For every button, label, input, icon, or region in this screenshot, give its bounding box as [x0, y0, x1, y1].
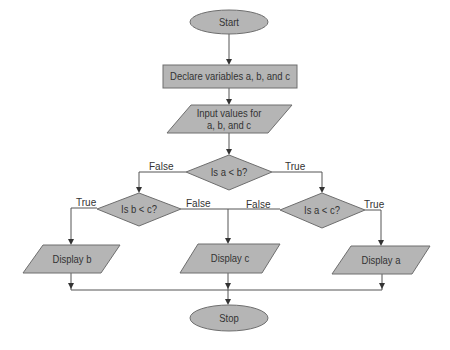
cond-ac-label: Is a < c?: [286, 204, 358, 216]
input-label-line1: Input values for: [180, 107, 279, 119]
edge-label-ac-true: True: [364, 199, 384, 210]
stop-label: Stop: [193, 312, 265, 324]
start-label: Start: [193, 16, 265, 28]
edge-label-bc-true: True: [76, 197, 96, 208]
cond-bc-label: Is b < c?: [103, 203, 175, 215]
edge-label-ab-true: True: [285, 161, 305, 172]
edge-label-ab-false: False: [149, 161, 173, 172]
declare-label: Declare variables a, b, and c: [170, 70, 291, 82]
edge-label-bc-false: False: [186, 198, 210, 209]
input-label-line2: a, b, and c: [180, 119, 279, 131]
display-b-label: Display b: [36, 253, 108, 265]
edge-label-ac-false: False: [246, 199, 270, 210]
display-a-label: Display a: [345, 254, 417, 266]
display-c-label: Display c: [194, 252, 266, 264]
cond-ab-label: Is a < b?: [193, 166, 265, 178]
